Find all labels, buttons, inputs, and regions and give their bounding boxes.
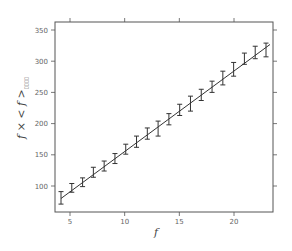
svg-text:f × < f >▯▯▯▯: f × < f >▯▯▯▯ (15, 77, 29, 140)
error-bar (80, 178, 85, 187)
y-axis-label-subscript: ▯▯▯▯ (23, 77, 29, 89)
chart: 5101520100150200250300350 f f × < f >▯▯▯… (0, 0, 292, 251)
x-tick-label: 10 (120, 218, 129, 226)
error-bar (210, 81, 215, 92)
fit-line (61, 44, 270, 198)
x-tick-label: 5 (68, 218, 72, 226)
y-axis-label: f × < f >▯▯▯▯ (15, 77, 29, 140)
error-bar (112, 154, 117, 164)
error-bar (264, 43, 269, 57)
error-bar (166, 114, 171, 125)
y-tick-label: 350 (35, 27, 48, 35)
error-bar (188, 96, 193, 111)
error-bar (69, 184, 74, 193)
fit-line-segment (61, 44, 270, 198)
error-bar (231, 62, 236, 76)
data-points (59, 43, 269, 204)
y-tick-label: 300 (35, 58, 48, 66)
y-tick-label: 150 (35, 151, 48, 159)
x-axis-label: f (153, 226, 160, 239)
y-axis-label-main: f × < f > (15, 89, 28, 140)
x-tick-label: 20 (230, 218, 239, 226)
error-bar (102, 161, 107, 171)
axis-ticks: 5101520100150200250300350 (35, 18, 277, 226)
y-tick-label: 250 (35, 89, 48, 97)
error-bar (199, 89, 204, 100)
error-bar (59, 192, 64, 204)
y-tick-label: 200 (35, 120, 48, 128)
x-tick-label: 15 (175, 218, 184, 226)
y-tick-label: 100 (35, 183, 48, 191)
plot-frame (55, 22, 273, 212)
